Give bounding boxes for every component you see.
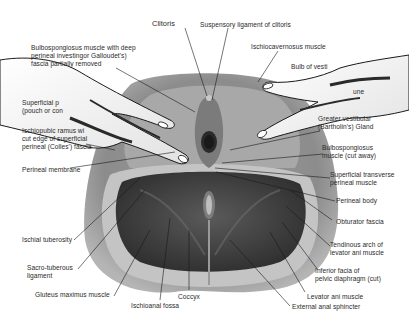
label-perineal-membrane: Perineal membrane xyxy=(22,166,80,174)
label-superficial-pouch: Superficial p (pouch or con xyxy=(22,99,63,115)
label-external-anal-sphincter: External anal sphincter xyxy=(292,303,360,311)
label-bulb-of-vestibule: Bulb of vesti xyxy=(291,63,328,71)
label-superficial-transverse-perineal: Superficial transverse perineal muscle xyxy=(330,171,395,187)
label-tendinous-arch: Tendinous arch of levator ani muscle xyxy=(330,241,384,257)
label-ischioanal-fossa: Ischioanal fossa xyxy=(131,302,179,310)
label-levator-ani: Levator ani muscle xyxy=(307,293,363,301)
label-inferior-fascia-pelvic-diaphragm: Inferior facia of pelvic diaphragm (cut) xyxy=(315,267,381,283)
label-obturator-fascia: Obturator fascia xyxy=(336,218,384,226)
label-ischiocavernosus: Ischiocavernosus muscle xyxy=(251,43,326,51)
label-bulbospongiosus-deep-fascia: Bulbospongiosus muscle with deep perinea… xyxy=(31,44,136,68)
label-sacrotuberous-ligament: Sacro-tuberous ligament xyxy=(27,264,73,280)
label-bulbospongiosus-cut: Bulbospongiosus muscle (cut away) xyxy=(322,144,376,160)
label-greater-vestibular-gland: Greater vestibular (Bartholin's) Gland xyxy=(318,115,373,131)
label-perineal-body: Perineal body xyxy=(336,197,377,205)
perineum-diagram: Clitoris Suspensory ligament of clitoris… xyxy=(0,0,409,329)
label-right-partial: une xyxy=(353,88,364,96)
label-gluteus-maximus: Gluteus maximus muscle xyxy=(35,291,110,299)
label-ischial-tuberosity: Ischial tuberosity xyxy=(22,236,72,244)
label-suspensory-ligament: Suspensory ligament of clitoris xyxy=(200,21,291,29)
label-ischiopubic-ramus: Ischiopubic ramus wi cut edge of superfi… xyxy=(22,127,92,151)
label-clitoris: Clitoris xyxy=(152,19,175,28)
label-coccyx: Coccyx xyxy=(178,293,200,301)
